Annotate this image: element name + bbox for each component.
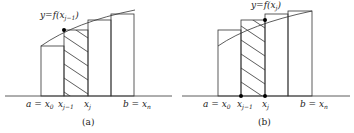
x-label-a0: a = x0 [26,99,54,110]
panel-b [182,11,350,98]
caption-b: (b) [258,117,271,127]
curve-label-a: y=f(xj−1) [39,10,79,22]
sample-point-dot [263,18,267,22]
x-label-a0: a = x0 [203,99,231,110]
sample-point-dot [62,28,66,32]
hatching [64,22,88,108]
xj-dot [263,94,267,98]
curve-label-b: y=f(xj) [250,0,281,12]
x-label-xj: xj [84,99,91,111]
rectangle-4 [111,14,134,96]
x-label-xj-1: xj−1 [58,99,74,111]
riemann-sum-diagram: y=f(xj−1) a = x0 xj−1 xj b = xn (a) y=f(… [0,0,354,133]
x-label-xj: xj [262,99,269,111]
rectangle-1 [41,46,64,96]
x-label-b: b = xn [123,99,151,110]
panel-a [5,10,172,108]
caption-a: (a) [82,117,94,127]
x-label-b: b = xn [300,99,328,110]
xj-1-dot [239,94,243,98]
rectangle-3 [265,14,288,96]
x-label-xj-1: xj−1 [237,99,253,111]
rectangle-1 [218,30,241,96]
rectangle-3 [88,20,111,96]
rectangle-4 [288,11,312,96]
